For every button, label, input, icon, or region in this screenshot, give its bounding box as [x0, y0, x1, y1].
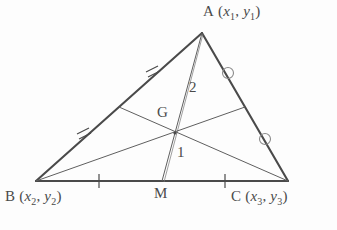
ratio-label-gm: 1: [177, 144, 185, 161]
point-label-G: G: [157, 104, 168, 121]
point-label-M: M: [154, 185, 167, 202]
vertex-label-A: A (x1, y1): [203, 3, 260, 22]
centroid-point-G: [173, 131, 176, 134]
median-B-to-midAC: [36, 107, 245, 181]
tickmarks-side-AB: [77, 66, 160, 139]
vertex-label-C-coords: (x3, y3): [241, 188, 287, 204]
vertex-label-B-coords: (x2, y2): [15, 188, 61, 204]
vertex-label-B: B (x2, y2): [5, 188, 62, 207]
vertex-label-C: C (x3, y3): [231, 188, 288, 207]
vertex-label-B-letter: B: [5, 188, 15, 204]
ratio-label-ag: 2: [189, 79, 197, 96]
vertex-label-C-letter: C: [231, 188, 241, 204]
vertex-label-A-coords: (x1, y1): [214, 3, 260, 19]
vertex-label-A-letter: A: [203, 3, 214, 19]
geometry-figure: A (x1, y1) B (x2, y2) C (x3, y3) G M 2 1: [0, 0, 337, 230]
